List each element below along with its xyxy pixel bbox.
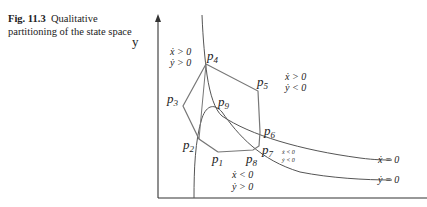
- region-top-right-xdot: ẋ > 0: [284, 71, 306, 82]
- region-top-left-ydot: ẏ > 0: [169, 57, 191, 68]
- region-bottom-xdot: ẋ < 0: [231, 169, 253, 180]
- point-p6: p6: [263, 123, 276, 140]
- region-small-ydot: ẏ < 0: [281, 157, 295, 163]
- region-bottom-ydot: ẏ > 0: [231, 181, 253, 192]
- point-p3: p3: [166, 91, 179, 108]
- y-axis-arrow-icon: [155, 14, 161, 22]
- state-space-diagram: y p1 p2 p3 p4 p5 p6 p7 p8 p9 ẋ > 0 ẏ > 0…: [0, 0, 427, 207]
- ydot-nullcline-label: ẏ = 0: [377, 174, 399, 185]
- region-top-left-xdot: ẋ > 0: [169, 46, 191, 57]
- point-p1: p1: [211, 151, 223, 168]
- xdot-nullcline-label: ẋ = 0: [377, 154, 399, 165]
- point-p5: p5: [256, 74, 269, 91]
- point-p9: p9: [217, 94, 230, 111]
- region-small-xdot: ẋ < 0: [281, 149, 295, 155]
- region-top-right-ydot: ẏ < 0: [284, 82, 306, 93]
- y-axis-label: y: [132, 34, 139, 49]
- point-p2: p2: [182, 137, 195, 154]
- point-p4: p4: [206, 48, 219, 65]
- point-p8: p8: [245, 151, 258, 168]
- point-p7: p7: [261, 142, 274, 159]
